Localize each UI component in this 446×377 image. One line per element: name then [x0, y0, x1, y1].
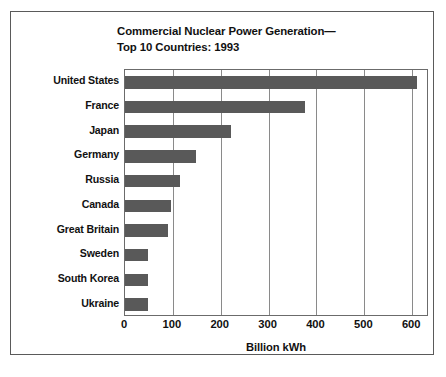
bar-row [125, 292, 427, 317]
x-tick-label-300: 300 [258, 318, 277, 330]
bar-row [125, 169, 427, 194]
bar [125, 274, 148, 287]
bar [125, 298, 148, 311]
x-tick-label-600: 600 [402, 318, 421, 330]
category-label: Japan [11, 124, 119, 136]
bar-row [125, 95, 427, 120]
bar-row [125, 119, 427, 144]
chart-title-line-2: Top 10 Countries: 1993 [117, 40, 417, 56]
x-tick-label-400: 400 [306, 318, 325, 330]
x-tick-label-200: 200 [210, 318, 229, 330]
category-axis-labels: United StatesFranceJapanGermanyRussiaCan… [11, 69, 119, 316]
bar [125, 175, 180, 188]
x-tick-label-0: 0 [121, 318, 127, 330]
bar [125, 224, 168, 237]
category-label: Russia [11, 173, 119, 185]
bar-row [125, 243, 427, 268]
category-label: Germany [11, 148, 119, 160]
bar-series [125, 70, 427, 315]
bar [125, 200, 171, 213]
bar [125, 150, 196, 163]
x-tick-label-100: 100 [163, 318, 182, 330]
x-axis-tick-labels: 0100200300400500600 [11, 318, 435, 336]
x-tick-label-500: 500 [354, 318, 373, 330]
bar-row [125, 144, 427, 169]
bar-row [125, 268, 427, 293]
bar [125, 76, 417, 89]
chart-title: Commercial Nuclear Power Generation— Top… [117, 24, 417, 55]
figure-frame: Commercial Nuclear Power Generation— Top… [10, 11, 434, 355]
chart-title-line-1: Commercial Nuclear Power Generation— [117, 24, 417, 40]
bar [125, 125, 231, 138]
plot-area [124, 69, 428, 316]
category-label: Ukraine [11, 297, 119, 309]
bar [125, 101, 305, 114]
bar-row [125, 218, 427, 243]
bar-row [125, 194, 427, 219]
bar [125, 249, 148, 262]
x-axis-title: Billion kWh [124, 341, 428, 353]
category-label: South Korea [11, 272, 119, 284]
category-label: Canada [11, 198, 119, 210]
bar-row [125, 70, 427, 95]
category-label: Great Britain [11, 223, 119, 235]
category-label: Sweden [11, 247, 119, 259]
category-label: United States [11, 74, 119, 86]
category-label: France [11, 99, 119, 111]
